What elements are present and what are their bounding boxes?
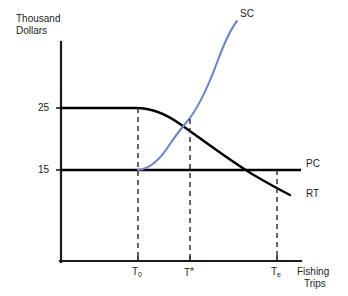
x-tick-label-t0: T0 — [132, 266, 142, 281]
curve-label-pc: PC — [306, 158, 320, 170]
x-tick-label-te: Te — [271, 266, 281, 281]
y-axis-title-line1: Thousand — [16, 13, 60, 25]
curve-rt — [61, 108, 290, 195]
chart-canvas — [0, 0, 348, 296]
x-tick-label-tstar-sub: * — [190, 266, 194, 277]
x-axis-title-line1: Fishing — [297, 266, 329, 278]
x-axis-title-line2: Trips — [304, 278, 326, 290]
economics-chart: Thousand Dollars 25 15 T0 T* Te Fishing … — [0, 0, 348, 296]
y-tick-label-15: 15 — [38, 164, 49, 176]
curve-sc — [138, 21, 237, 170]
x-tick-label-t0-sub: 0 — [138, 271, 142, 278]
x-tick-label-tstar: T* — [184, 266, 194, 279]
curve-label-rt: RT — [306, 188, 319, 200]
y-tick-label-25: 25 — [38, 102, 49, 114]
curve-label-sc: SC — [240, 8, 254, 20]
y-axis-title-line2: Dollars — [16, 25, 47, 37]
x-tick-label-te-sub: e — [277, 271, 281, 278]
